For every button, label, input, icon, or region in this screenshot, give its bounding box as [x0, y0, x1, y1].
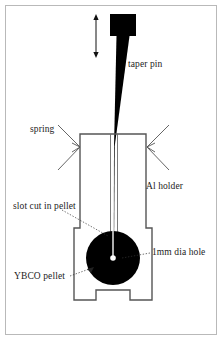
label-al-holder: Al holder: [146, 182, 183, 192]
motion-arrow-icon: [93, 14, 98, 58]
figure-page: taper pin spring Al holder slot cut in p…: [0, 0, 224, 342]
leader-slot: [62, 210, 108, 236]
spring-right-icon: [147, 125, 169, 170]
spring-left-icon: [58, 125, 80, 170]
taper-pin-shape: [110, 14, 136, 232]
label-ybco-pellet: YBCO pellet: [14, 272, 65, 282]
label-hole-diameter: 1mm dia hole: [152, 248, 205, 258]
label-spring: spring: [30, 125, 54, 135]
figure-drawing: [0, 0, 224, 342]
ybco-pellet-shape: [86, 231, 140, 285]
label-slot-cut-in-pellet: slot cut in pellet: [13, 202, 76, 212]
label-taper-pin: taper pin: [128, 60, 162, 70]
